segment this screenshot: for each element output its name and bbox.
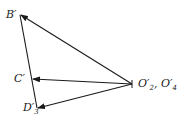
- vector-o-to-d: [38, 84, 132, 108]
- label-d: D′3: [23, 102, 39, 116]
- line-b-to-d: [20, 15, 37, 108]
- label-b: B′: [6, 9, 17, 20]
- label-o: O′2, O′4: [138, 78, 177, 92]
- vector-o-to-c: [33, 79, 132, 84]
- label-c: C′: [14, 73, 25, 84]
- vector-o-to-b: [21, 15, 132, 84]
